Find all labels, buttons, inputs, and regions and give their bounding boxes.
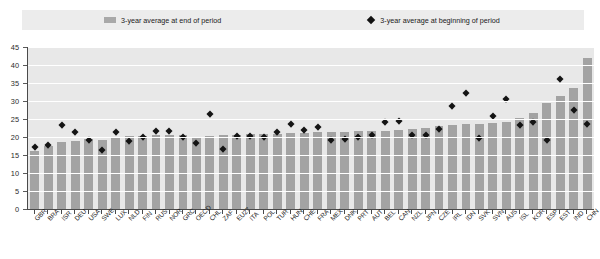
bar-group[interactable]	[502, 47, 511, 209]
x-tick-mark	[344, 210, 345, 214]
bar-group[interactable]	[219, 47, 228, 209]
bar-group[interactable]	[542, 47, 551, 209]
bar[interactable]	[246, 134, 255, 209]
bar-chart: 051015202530354045 GBRBRAISRDEUUSASWELUX…	[0, 38, 599, 259]
bar[interactable]	[259, 134, 268, 209]
y-tick-label: 15	[11, 151, 19, 160]
bar[interactable]	[232, 135, 241, 209]
grid-line	[28, 101, 594, 102]
bar-group[interactable]	[205, 47, 214, 209]
x-tick-mark	[398, 210, 399, 214]
bar[interactable]	[515, 118, 524, 209]
bar-group[interactable]	[569, 47, 578, 209]
diamond-data-point[interactable]	[71, 129, 79, 137]
grid-line	[28, 47, 594, 48]
legend-label-beginning-of-period: 3-year average at beginning of period	[380, 16, 499, 25]
bar-group[interactable]	[125, 47, 134, 209]
bar[interactable]	[502, 122, 511, 209]
y-tick-label: 40	[11, 61, 19, 70]
bar-group[interactable]	[421, 47, 430, 209]
bar[interactable]	[394, 130, 403, 209]
bar[interactable]	[408, 129, 417, 209]
bar-group[interactable]	[529, 47, 538, 209]
bar-group[interactable]	[475, 47, 484, 209]
bar-group[interactable]	[246, 47, 255, 209]
bar-group[interactable]	[152, 47, 161, 209]
bar-group[interactable]	[354, 47, 363, 209]
plot-area	[27, 47, 594, 209]
y-tick-label: 10	[11, 169, 19, 178]
bar-group[interactable]	[394, 47, 403, 209]
diamond-data-point[interactable]	[58, 122, 66, 130]
bar[interactable]	[57, 142, 66, 209]
bar[interactable]	[435, 126, 444, 209]
bar[interactable]	[300, 133, 309, 209]
diamond-data-point[interactable]	[166, 127, 174, 135]
x-tick-label-jpn: JPN	[424, 208, 438, 222]
y-axis: 051015202530354045	[0, 38, 23, 213]
y-tick-mark	[23, 155, 27, 156]
bar-group[interactable]	[462, 47, 471, 209]
bar-group[interactable]	[259, 47, 268, 209]
bar-group[interactable]	[381, 47, 390, 209]
bar-group[interactable]	[44, 47, 53, 209]
bar-group[interactable]	[84, 47, 93, 209]
bar-group[interactable]	[327, 47, 336, 209]
bar-group[interactable]	[300, 47, 309, 209]
bar-group[interactable]	[232, 47, 241, 209]
bar[interactable]	[488, 123, 497, 209]
diamond-data-point[interactable]	[287, 121, 295, 129]
legend-item-end-of-period: 3-year average at end of period	[104, 16, 221, 25]
bar-group[interactable]	[367, 47, 376, 209]
bar[interactable]	[313, 132, 322, 209]
y-tick-label: 20	[11, 133, 19, 142]
bar-group[interactable]	[556, 47, 565, 209]
bar-group[interactable]	[179, 47, 188, 209]
bar-swatch-icon	[104, 17, 116, 23]
bar-group[interactable]	[448, 47, 457, 209]
bar-group[interactable]	[111, 47, 120, 209]
bar-group[interactable]	[313, 47, 322, 209]
x-tick-mark	[425, 210, 426, 214]
bar-group[interactable]	[71, 47, 80, 209]
bar-group[interactable]	[435, 47, 444, 209]
diamond-data-point[interactable]	[449, 103, 457, 111]
bar-group[interactable]	[488, 47, 497, 209]
y-tick-mark	[23, 83, 27, 84]
diamond-data-point[interactable]	[314, 123, 322, 131]
bar[interactable]	[381, 131, 390, 209]
bar[interactable]	[354, 131, 363, 209]
bar-group[interactable]	[138, 47, 147, 209]
bar[interactable]	[583, 58, 592, 209]
diamond-data-point[interactable]	[112, 129, 120, 137]
bar-group[interactable]	[408, 47, 417, 209]
bar-group[interactable]	[340, 47, 349, 209]
bar-group[interactable]	[192, 47, 201, 209]
chart-legend: 3-year average at end of period 3-year a…	[22, 10, 584, 30]
bar[interactable]	[286, 133, 295, 209]
bar-group[interactable]	[165, 47, 174, 209]
bar[interactable]	[367, 131, 376, 209]
bar[interactable]	[273, 134, 282, 209]
bar-group[interactable]	[57, 47, 66, 209]
grid-line	[28, 191, 594, 192]
grid-line	[28, 173, 594, 174]
grid-line	[28, 137, 594, 138]
x-tick-label-nzl: NZL	[410, 208, 424, 222]
bar[interactable]	[71, 141, 80, 209]
bar-group[interactable]	[30, 47, 39, 209]
y-tick-label: 30	[11, 97, 19, 106]
bar[interactable]	[421, 128, 430, 209]
bar-group[interactable]	[273, 47, 282, 209]
grid-line	[28, 155, 594, 156]
bar[interactable]	[529, 113, 538, 209]
diamond-data-point[interactable]	[462, 90, 470, 98]
bar-group[interactable]	[515, 47, 524, 209]
diamond-data-point[interactable]	[206, 111, 214, 119]
x-tick-mark	[61, 210, 62, 214]
bar-group[interactable]	[286, 47, 295, 209]
bar[interactable]	[30, 151, 39, 209]
bar[interactable]	[179, 135, 188, 209]
bar-group[interactable]	[583, 47, 592, 209]
bar-group[interactable]	[98, 47, 107, 209]
